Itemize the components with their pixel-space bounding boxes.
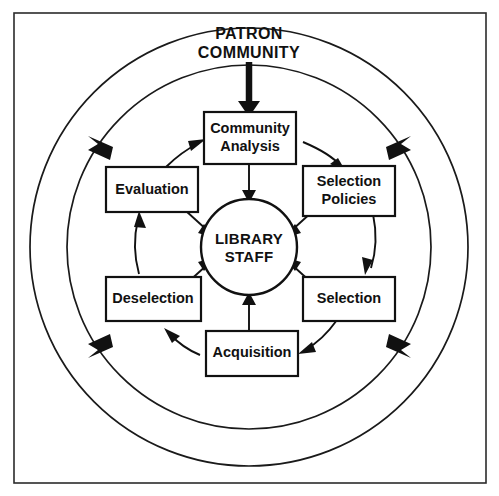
node-label-deselection: Deselection (112, 290, 193, 306)
node-label-selection: Selection (317, 290, 381, 306)
node-label-community-analysis-line1: Community (210, 120, 290, 136)
node-label-evaluation: Evaluation (115, 181, 188, 197)
patron-community-label-line2: COMMUNITY (198, 44, 300, 61)
diagram-canvas: LIBRARY STAFF Community Analysis Selecti… (0, 0, 499, 496)
patron-community-label-line1: PATRON (215, 25, 283, 42)
node-label-selection-policies-line1: Selection (317, 173, 381, 189)
node-label-community-analysis-line2: Analysis (220, 138, 280, 154)
node-label-selection-policies-line2: Policies (322, 191, 377, 207)
center-label-line1: LIBRARY (215, 230, 283, 247)
center-label-line2: STAFF (225, 248, 274, 265)
collection-development-cycle-diagram: LIBRARY STAFF Community Analysis Selecti… (0, 0, 499, 496)
node-label-acquisition: Acquisition (213, 344, 292, 360)
